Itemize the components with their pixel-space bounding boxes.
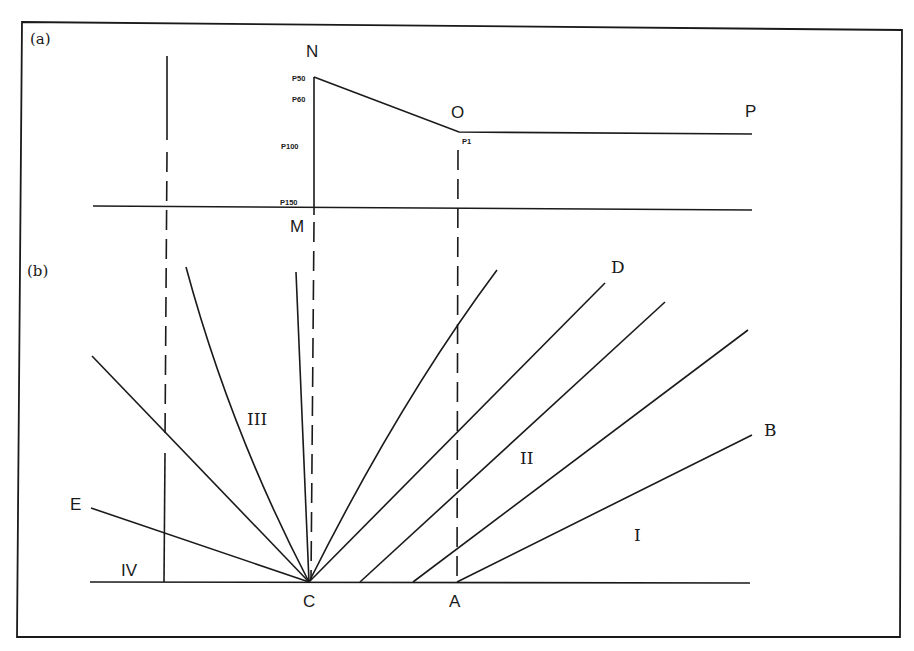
panel-a-label: (a) (30, 30, 51, 48)
point-p-label: P (745, 102, 756, 121)
p150-label: P150 (280, 198, 298, 207)
p60-label: P60 (292, 95, 305, 104)
line-a-b (457, 435, 752, 582)
line-mid-1 (360, 302, 665, 582)
point-b-label: B (764, 420, 777, 440)
line-c-upper-left (92, 356, 309, 582)
baseline (90, 582, 750, 583)
mn-dashed-extension (311, 222, 314, 580)
line-c-near-vertical (296, 272, 309, 582)
region-i-label: I (634, 525, 641, 545)
point-n-label: N (306, 42, 318, 61)
region-ii-label: II (520, 448, 533, 468)
pressure-profile-line (314, 77, 752, 134)
left-vertical-dashed (165, 152, 167, 440)
panel-b-label: (b) (27, 262, 48, 280)
p1-label: P1 (462, 137, 471, 146)
line-mid-2 (413, 330, 748, 582)
p100-label: P100 (281, 142, 299, 151)
point-m-label: M (290, 217, 304, 236)
point-a-label: A (449, 592, 461, 611)
point-e-label: E (70, 495, 81, 514)
point-d-label: D (611, 257, 625, 277)
point-c-label: C (303, 592, 315, 611)
curve-c-upper-right (309, 270, 497, 582)
left-vertical-lower (164, 453, 165, 582)
point-o-label: O (451, 103, 464, 122)
p150-horizontal-line (93, 206, 752, 210)
oa-dashed-line (457, 150, 458, 582)
shock-polar-diagram: (a) N O P M P50 P60 P100 P150 P1 (b) C A… (0, 0, 914, 651)
region-iii-label: III (247, 409, 267, 429)
region-iv-label: IV (121, 561, 138, 580)
p50-label: P50 (292, 74, 305, 83)
